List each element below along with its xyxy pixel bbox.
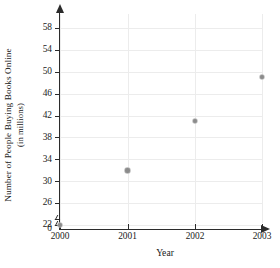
gridline-horizontal [60, 94, 263, 95]
gridline-horizontal [60, 181, 263, 182]
gridline-horizontal [60, 116, 263, 117]
y-axis-tick-label: 42 [26, 111, 52, 120]
data-point [125, 168, 129, 172]
y-axis-tick-mark [55, 203, 60, 204]
y-axis-title-line1: Number of People Buying Books Online [3, 48, 13, 201]
x-axis-tick-label: 2001 [108, 232, 148, 241]
y-axis-tick-label: 30 [26, 177, 52, 186]
y-axis-tick-label: 54 [26, 45, 52, 54]
x-axis-tick-label: 2002 [175, 232, 215, 241]
y-axis-tick-mark [55, 181, 60, 182]
y-axis-tick-label: 46 [26, 89, 52, 98]
y-axis-title-line2: (in millions) [15, 21, 27, 229]
y-axis-tick-label: 26 [26, 198, 52, 207]
gridline-horizontal [60, 203, 263, 204]
y-axis-tick-label: 38 [26, 133, 52, 142]
gridline-horizontal [60, 50, 263, 51]
x-axis-title: Year [60, 247, 270, 258]
scatter-chart: Number of People Buying Books Online (in… [0, 0, 280, 268]
x-axis-tick-mark [262, 224, 263, 229]
y-axis-tick-mark [55, 28, 60, 29]
y-axis-tick-mark [55, 159, 60, 160]
gridline-vertical [128, 14, 129, 223]
x-axis-line [59, 229, 262, 230]
gridline-vertical [262, 14, 263, 223]
x-axis-tick-mark [128, 224, 129, 229]
gridline-horizontal [60, 159, 263, 160]
plot-area [60, 14, 265, 225]
x-axis-tick-mark [195, 224, 196, 229]
gridline-vertical [60, 14, 61, 223]
y-axis-tick-label: 50 [26, 67, 52, 76]
y-axis-tick-mark [55, 137, 60, 138]
gridline-horizontal [60, 225, 263, 226]
data-point [58, 223, 62, 227]
y-axis-tick-mark [55, 72, 60, 73]
y-axis-tick-label: 34 [26, 155, 52, 164]
y-axis-tick-label: 58 [26, 23, 52, 32]
gridline-horizontal [60, 28, 263, 29]
gridline-horizontal [60, 137, 263, 138]
y-axis-tick-mark [55, 94, 60, 95]
x-axis-tick-label: 2000 [40, 232, 80, 241]
y-axis-arrow-icon [56, 4, 64, 13]
gridline-horizontal [60, 72, 263, 73]
y-axis-line [59, 12, 60, 229]
x-axis-tick-label: 2003 [242, 232, 280, 241]
y-axis-tick-mark [55, 116, 60, 117]
y-axis-tick-mark [55, 50, 60, 51]
